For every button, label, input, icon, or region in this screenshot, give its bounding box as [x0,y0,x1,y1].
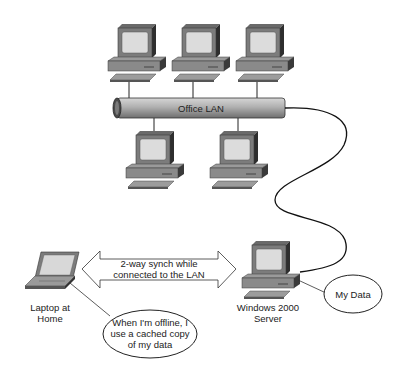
offline-callout-line3: of my data [128,339,173,350]
offline-callout-line2: use a cached copy [110,328,189,339]
workstation-icon [108,24,166,82]
server-label-line2: Server [254,313,282,324]
server-label-line1: Windows 2000 [237,302,299,313]
offline-callout-pointer [70,283,110,316]
laptop-label-line1: Laptop at [30,302,70,313]
sync-label-line1: 2-way synch while [120,258,197,269]
offline-callout-line1: When I'm offline, I [112,317,188,328]
workstation-icon [172,24,230,82]
sync-arrow: 2-way synch while connected to the LAN [82,251,236,288]
workstation-icon [236,24,294,82]
office-lan-pipe: Office LAN [113,98,285,118]
mydata-callout: My Data [324,275,382,313]
laptop-label-line2: Home [37,313,62,324]
workstation-icon [126,131,184,189]
lan-label: Office LAN [178,103,224,114]
workstation-icon [210,131,268,189]
offline-callout: When I'm offline, I use a cached copy of… [103,310,197,358]
mydata-callout-pointer [298,280,326,293]
server-icon [242,241,300,299]
mydata-callout-text: My Data [335,289,371,300]
network-diagram: Office LAN Windows 2000 Server Laptop at… [0,0,408,375]
sync-label-line2: connected to the LAN [113,269,205,280]
